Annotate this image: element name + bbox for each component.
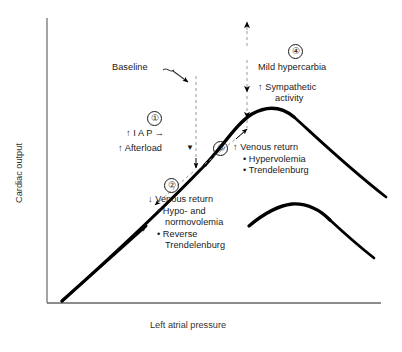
annotation-2-normovolemia: normovolemia: [165, 217, 223, 228]
annotation-marker-3: ③: [213, 141, 228, 156]
diagram-canvas: [0, 0, 402, 352]
baseline-squiggle: [163, 69, 174, 71]
x-axis-label: Left atrial pressure: [150, 320, 226, 330]
annotation-2-reverse: • Reverse: [157, 229, 197, 240]
y-axis-label: Cardiac output: [14, 128, 24, 218]
depressed-curve-peak: [249, 204, 330, 226]
starling-curve-diagram: Cardiac output Left atrial pressure Base…: [0, 0, 402, 352]
annotation-1-iap: ↑ I A P →: [126, 128, 164, 139]
annotation-2-venous-return: ↓ Venous return: [148, 194, 213, 205]
baseline-curve-descending: [294, 117, 386, 197]
annotation-1-afterload: ↑ Afterload: [118, 143, 162, 154]
annotation-2-trendelenburg: Trendelenburg: [165, 240, 225, 251]
annotation-3-hypervolemia: • Hypervolemia: [243, 154, 306, 165]
annotation-3-trendelenburg: • Trendelenburg: [243, 165, 309, 176]
annotation-4-hypercarbia: Mild hypercarbia: [258, 62, 326, 73]
reverse-trendelenburg-limb: [62, 226, 146, 301]
baseline-pointer-arrow: [173, 71, 188, 82]
annotation-4-activity: activity: [275, 93, 303, 104]
annotation-1-afterload-arrow: ▼: [186, 142, 194, 153]
annotation-marker-1: ①: [147, 111, 162, 126]
depressed-curve-descending: [330, 220, 374, 258]
annotation-4-sympathetic: ↑ Sympathetic: [258, 82, 316, 93]
venous-return-up-arrowhead: [236, 129, 247, 139]
annotation-2-hypo: • Hypo- and: [157, 206, 206, 217]
baseline-label: Baseline: [112, 62, 148, 73]
annotation-3-venous-return: ↑ Venous return: [233, 142, 298, 153]
annotation-marker-4: ④: [288, 44, 303, 59]
annotation-marker-2: ②: [164, 178, 179, 193]
